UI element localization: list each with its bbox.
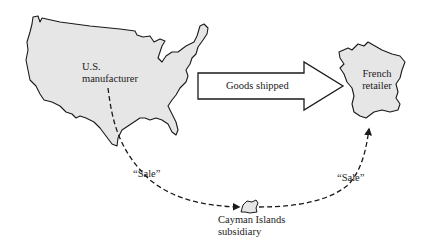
france-label-line1: French [355,68,399,80]
us-label-line2: manufacturer [82,73,138,85]
cayman-label-line1: Cayman Islands [218,214,285,226]
diagram-graphics [0,0,425,250]
cayman-label-line2: subsidiary [218,226,285,238]
sale-label-left: “Sale” [133,168,160,180]
cayman-island-shape [241,200,258,213]
france-label-line2: retailer [355,80,399,92]
us-manufacturer-label: U.S. manufacturer [82,61,138,85]
goods-shipped-label: Goods shipped [226,80,289,92]
us-label-line1: U.S. [82,61,138,73]
sale-label-right: “Sale” [337,172,364,184]
cayman-subsidiary-label: Cayman Islands subsidiary [218,214,285,238]
french-retailer-label: French retailer [355,68,399,92]
diagram-canvas: U.S. manufacturer Goods shipped French r… [0,0,425,250]
sale-path-cayman-to-france [259,129,369,207]
